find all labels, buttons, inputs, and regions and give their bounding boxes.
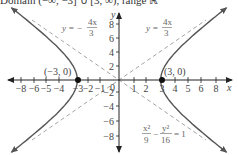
vertex-right	[159, 77, 165, 83]
x-tick-label: −2	[83, 83, 94, 94]
svg-text:y =: y =	[145, 23, 158, 33]
vertex-right-label: (3, 0)	[164, 66, 186, 78]
svg-text:−: −	[153, 129, 158, 139]
vertex-left-label: (−3, 0)	[44, 66, 71, 78]
asymptote-neg-label: y = − 4x 3	[61, 17, 98, 38]
svg-text:= 1: = 1	[174, 129, 186, 139]
svg-text:4x: 4x	[163, 17, 173, 27]
hyperbola-chart: −8−6−5−4−3−2−11234568 8642−2−4−6−8 x y 0…	[0, 0, 238, 155]
x-tick-label: 5	[186, 83, 191, 94]
svg-text:y = −: y = −	[61, 23, 83, 33]
y-tick-label: 4	[109, 47, 114, 58]
x-tick-label: −4	[54, 83, 65, 94]
svg-text:3: 3	[164, 28, 169, 38]
x-tick-label: 4	[173, 83, 178, 94]
svg-text:3: 3	[89, 28, 94, 38]
y-tick-label: −6	[103, 116, 114, 127]
asymptote-pos-label: y = 4x 3	[145, 17, 173, 38]
y-tick-label: 6	[109, 33, 114, 44]
svg-text:x²: x²	[143, 123, 151, 133]
x-tick-label: −5	[41, 83, 52, 94]
x-tick-label: 2	[144, 83, 149, 94]
x-axis-label: x	[226, 82, 232, 93]
vertex-left	[75, 77, 81, 83]
x-tick-label: 1	[132, 83, 137, 94]
svg-text:9: 9	[144, 135, 149, 145]
equation-label: x² 9 − y² 16 = 1	[142, 123, 186, 145]
svg-text:4x: 4x	[88, 17, 98, 27]
y-tick-label: 8	[109, 19, 114, 30]
x-tick-label: 6	[199, 83, 204, 94]
origin-label: 0	[110, 82, 115, 93]
x-tick-label: −8	[16, 83, 27, 94]
x-tick-label: −6	[29, 83, 40, 94]
y-axis-label: y	[110, 9, 116, 20]
y-tick-label: −4	[103, 101, 114, 112]
y-tick-label: −8	[103, 131, 114, 142]
x-tick-label: 8	[214, 83, 219, 94]
y-tick-label: 2	[109, 61, 114, 72]
svg-text:16: 16	[161, 135, 171, 145]
svg-text:y²: y²	[162, 123, 170, 133]
